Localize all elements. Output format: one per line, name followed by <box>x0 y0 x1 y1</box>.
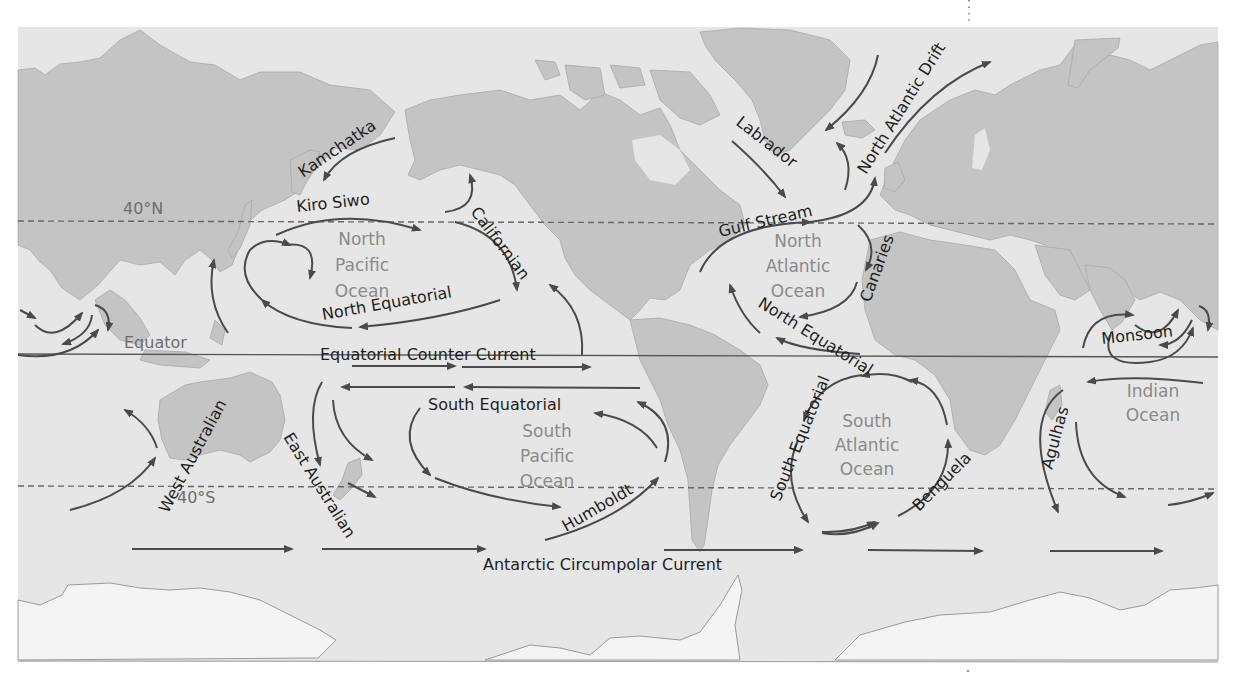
south-pacific-label: South <box>522 421 571 441</box>
south-atlantic-label: South <box>842 411 891 431</box>
guide-dot <box>967 670 969 672</box>
label-south-equatorial-pacific: South Equatorial <box>428 395 561 414</box>
equator-label: Equator <box>124 333 187 352</box>
arrow-south-equatorial-pacific-1 <box>465 387 640 388</box>
north-atlantic-label-2: Atlantic <box>766 256 831 276</box>
arrow-acc-4 <box>868 550 982 551</box>
ocean-currents-map: 40°N Equator 40°S <box>0 0 1237 676</box>
indian-ocean-label-2: Ocean <box>1126 405 1180 425</box>
south-atlantic-label-2: Atlantic <box>835 435 900 455</box>
north-atlantic-label: North <box>774 231 822 251</box>
south-pacific-label-3: Ocean <box>520 471 574 491</box>
label-antarctic-circumpolar: Antarctic Circumpolar Current <box>483 555 722 574</box>
indian-ocean-label: Indian <box>1127 381 1180 401</box>
north-pacific-label: North <box>338 229 386 249</box>
north-pacific-label-3: Ocean <box>335 281 389 301</box>
south-pacific-label-2: Pacific <box>520 446 574 466</box>
label-equatorial-counter-current: Equatorial Counter Current <box>320 345 536 364</box>
latitude-40n-label: 40°N <box>123 199 163 218</box>
north-atlantic-label-3: Ocean <box>771 281 825 301</box>
south-atlantic-label-3: Ocean <box>840 459 894 479</box>
north-pacific-label-2: Pacific <box>335 255 389 275</box>
